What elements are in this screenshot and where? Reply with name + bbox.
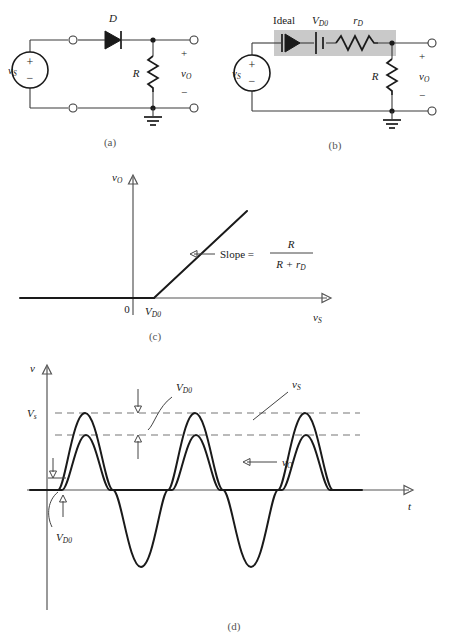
knee-label-vd0: VD0: [145, 305, 161, 319]
slope-denominator: R + rD: [275, 258, 306, 272]
vd0-threshold-arrow-lower: [60, 495, 67, 517]
panel-d-waveforms: v t Vs VD0 vS vO: [0, 345, 467, 643]
slope-numerator: R: [287, 238, 295, 250]
vd0-label-top: VD0: [176, 381, 192, 395]
input-terminal-bottom: [69, 104, 77, 112]
panel-c-yaxis-label: vO: [112, 171, 123, 185]
vd0-threshold-arrow-upper: [50, 458, 57, 478]
resistor-label: R: [132, 67, 140, 79]
panel-a-caption: (a): [104, 136, 117, 149]
bottom-caption-clipped: [0, 634, 467, 643]
junction-node-top: [150, 37, 155, 42]
vs-curve-label: vS: [292, 378, 301, 392]
panel-c-transfer-characteristic: vO vS 0 VD0 Slope = R R + rD (c): [0, 155, 467, 345]
output-terminal-top: [428, 39, 436, 47]
ground-symbol: [144, 108, 162, 125]
source-minus-sign: −: [27, 71, 34, 85]
output-terminal-bottom: [190, 104, 198, 112]
resistor-symbol: [387, 59, 397, 95]
source-minus-sign: −: [249, 74, 256, 88]
panel-d-caption: (d): [228, 620, 241, 633]
output-plus-sign: +: [419, 50, 425, 62]
vd0-label-bottom: VD0: [56, 531, 72, 545]
vs-leader-line: [253, 392, 288, 420]
source-plus-sign: +: [249, 58, 256, 72]
voltage-source-vs: + −: [12, 52, 48, 88]
input-terminal-top: [69, 36, 77, 44]
peak-label-vs: Vs: [27, 407, 37, 421]
ground-symbol: [383, 111, 401, 128]
panel-b-circuit: + − vS Ideal VD0 rD R: [232, 0, 467, 155]
vd0-gap-arrow-top: [135, 389, 142, 413]
panel-c-caption: (c): [149, 330, 162, 343]
junction-node-top: [389, 40, 394, 45]
resistor-label: R: [371, 70, 379, 82]
origin-label: 0: [124, 303, 130, 315]
figure-root: + − vS D R + vO: [0, 0, 467, 643]
output-minus-sign: −: [419, 89, 425, 101]
output-terminal-bottom: [428, 107, 436, 115]
vd0-leader-line-bottom: [49, 492, 58, 527]
ideal-diode-label: Ideal: [273, 14, 295, 26]
panel-d-xaxis-label: t: [408, 500, 412, 512]
slope-text: Slope =: [220, 248, 254, 260]
output-terminal-top: [190, 36, 198, 44]
rd-label: rD: [353, 14, 363, 28]
output-label-vo: vO: [181, 67, 192, 81]
vd0-gap-arrow-bottom: [135, 435, 142, 459]
panel-a-circuit: + − vS D R + vO: [0, 0, 232, 155]
diode-label: D: [108, 12, 117, 24]
slope-fraction: R R + rD: [270, 238, 313, 272]
output-minus-sign: −: [181, 86, 187, 98]
panel-d-yaxis-label: v: [30, 362, 35, 374]
battery-label-vd0: VD0: [312, 14, 328, 28]
output-label-vo: vO: [419, 70, 430, 84]
diode-symbol: [100, 31, 130, 49]
panel-a-wiring: [30, 40, 190, 108]
source-plus-sign: +: [27, 55, 34, 69]
vo-waveform-curve: [30, 435, 362, 490]
output-plus-sign: +: [181, 47, 187, 59]
panel-c-xaxis-label: vS: [313, 311, 322, 325]
vo-leader-line: [243, 459, 277, 466]
panel-b-caption: (b): [329, 139, 342, 152]
resistor-symbol: [148, 56, 158, 92]
